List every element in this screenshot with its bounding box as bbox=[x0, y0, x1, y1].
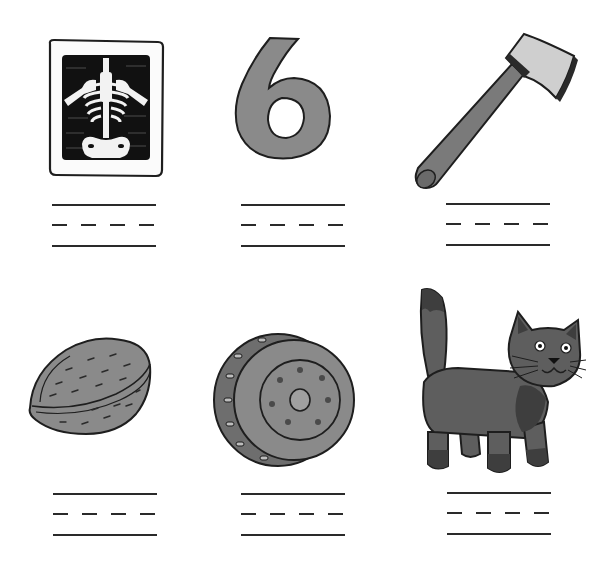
middle-dashed-line bbox=[447, 512, 551, 514]
picture-label: six bbox=[200, 0, 201, 1]
top-line bbox=[241, 204, 345, 206]
picture-label: axe bbox=[400, 0, 401, 1]
worksheet-item-walnut: walnut bbox=[0, 280, 200, 566]
top-line bbox=[52, 204, 156, 206]
worksheet-item-axe: axe bbox=[400, 0, 606, 260]
base-line bbox=[447, 533, 551, 535]
top-line bbox=[53, 493, 157, 495]
picture-label: cat bbox=[400, 280, 401, 281]
middle-dashed-line bbox=[241, 513, 345, 515]
base-line bbox=[446, 244, 550, 246]
worksheet-item-cat: cat bbox=[400, 280, 606, 566]
picture-label: x-ray bbox=[0, 0, 1, 1]
middle-dashed-line bbox=[52, 224, 156, 226]
middle-dashed-line bbox=[53, 513, 157, 515]
base-line bbox=[241, 534, 345, 536]
number-six-icon bbox=[232, 34, 336, 164]
top-line bbox=[241, 493, 345, 495]
top-line bbox=[447, 492, 551, 494]
worksheet-item-xray: x-ray bbox=[0, 0, 200, 260]
writing-lines[interactable] bbox=[446, 203, 550, 247]
worksheet-item-six: six bbox=[200, 0, 400, 260]
writing-lines[interactable] bbox=[241, 493, 345, 537]
middle-dashed-line bbox=[446, 223, 550, 225]
writing-lines[interactable] bbox=[447, 492, 551, 536]
xray-icon bbox=[46, 38, 166, 180]
writing-lines[interactable] bbox=[52, 204, 156, 248]
base-line bbox=[52, 245, 156, 247]
cat-icon bbox=[414, 282, 586, 476]
worksheet-item-wheel: wheel bbox=[200, 280, 400, 566]
top-line bbox=[446, 203, 550, 205]
axe-icon bbox=[406, 26, 586, 194]
base-line bbox=[241, 245, 345, 247]
base-line bbox=[53, 534, 157, 536]
middle-dashed-line bbox=[241, 224, 345, 226]
walnut-icon bbox=[26, 332, 156, 438]
wheel-icon bbox=[208, 330, 358, 470]
writing-lines[interactable] bbox=[53, 493, 157, 537]
picture-label: wheel bbox=[200, 280, 201, 281]
picture-label: walnut bbox=[0, 280, 1, 281]
writing-lines[interactable] bbox=[241, 204, 345, 248]
